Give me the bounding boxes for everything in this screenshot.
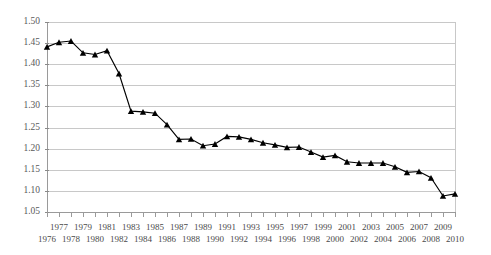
y-tick-label: 1.40 [6, 59, 40, 68]
x-tick-mark [107, 212, 108, 217]
x-tick-label: 2010 [438, 234, 472, 244]
y-tick-mark [45, 106, 49, 107]
x-tick-mark [335, 212, 336, 217]
x-tick-mark [287, 212, 288, 217]
x-tick-mark [383, 212, 384, 217]
y-tick-mark [45, 128, 49, 129]
y-tick-label: 1.35 [6, 80, 40, 89]
x-tick-mark [275, 212, 276, 217]
x-tick-mark [83, 212, 84, 217]
gridline [47, 22, 455, 23]
x-tick-mark [323, 212, 324, 217]
gridline [47, 170, 455, 171]
y-tick-label: 1.45 [6, 38, 40, 47]
x-tick-mark [215, 212, 216, 217]
y-axis-labels: 1.051.101.151.201.251.301.351.401.451.50 [2, 0, 40, 255]
y-tick-mark [45, 149, 49, 150]
x-tick-mark [299, 212, 300, 217]
gridline [47, 85, 455, 86]
x-tick-mark [407, 212, 408, 217]
x-tick-mark [119, 212, 120, 217]
x-tick-mark [359, 212, 360, 217]
x-tick-mark [47, 212, 48, 217]
x-tick-mark [371, 212, 372, 217]
y-tick-label: 1.25 [6, 123, 40, 132]
y-tick-label: 1.50 [6, 17, 40, 26]
x-tick-mark [191, 212, 192, 217]
x-tick-mark [263, 212, 264, 217]
x-tick-mark [395, 212, 396, 217]
x-tick-label: 2009 [426, 222, 460, 232]
gridline [47, 191, 455, 192]
x-tick-mark [179, 212, 180, 217]
x-tick-mark [443, 212, 444, 217]
x-tick-mark [239, 212, 240, 217]
x-tick-mark [455, 212, 456, 217]
gridline [47, 64, 455, 65]
gridline [47, 106, 455, 107]
x-tick-mark [59, 212, 60, 217]
gridline [47, 128, 455, 129]
x-tick-mark [95, 212, 96, 217]
y-tick-label: 1.05 [6, 207, 40, 216]
x-tick-mark [311, 212, 312, 217]
x-tick-mark [155, 212, 156, 217]
plot-right-border [455, 22, 456, 213]
x-tick-mark [167, 212, 168, 217]
y-tick-mark [45, 191, 49, 192]
y-tick-label: 1.15 [6, 165, 40, 174]
x-tick-mark [251, 212, 252, 217]
gridline [47, 43, 455, 44]
y-tick-label: 1.20 [6, 144, 40, 153]
y-axis-line [47, 22, 48, 213]
y-tick-mark [45, 170, 49, 171]
y-tick-mark [45, 64, 49, 65]
x-tick-mark [227, 212, 228, 217]
plot-area [47, 22, 455, 212]
x-tick-mark [431, 212, 432, 217]
x-tick-mark [203, 212, 204, 217]
x-tick-mark [131, 212, 132, 217]
x-tick-mark [143, 212, 144, 217]
y-tick-label: 1.10 [6, 186, 40, 195]
x-tick-mark [71, 212, 72, 217]
line-chart: 1.051.101.151.201.251.301.351.401.451.50… [0, 0, 491, 255]
y-tick-mark [45, 85, 49, 86]
y-tick-mark [45, 22, 49, 23]
x-tick-mark [419, 212, 420, 217]
x-tick-mark [347, 212, 348, 217]
y-tick-mark [45, 43, 49, 44]
gridline [47, 149, 455, 150]
y-tick-label: 1.30 [6, 101, 40, 110]
